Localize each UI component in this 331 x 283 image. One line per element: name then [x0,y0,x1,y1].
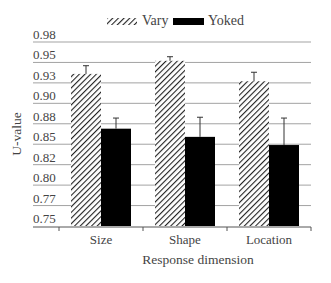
x-axis-label: Response dimension [142,252,254,267]
legend-label-yoked: Yoked [208,13,244,28]
bars [71,57,299,226]
bar-vary-size [71,74,101,226]
bar-vary-location [239,81,269,226]
bar-chart: Vary Yoked 0.750.770.800.820.850.880.900… [0,0,331,283]
bar-yoked-location [269,145,299,226]
y-tick-label: 0.75 [33,211,56,226]
legend-swatch-vary [107,18,137,25]
y-tick-label: 0.95 [33,47,56,62]
y-tick-label: 0.82 [33,150,56,165]
y-tick-label: 0.90 [33,88,56,103]
bar-yoked-shape [185,137,215,226]
legend-label-vary: Vary [142,13,168,28]
y-axis-label: U-value [9,112,24,155]
bar-vary-shape [155,61,185,226]
y-axis-tick-labels: 0.750.770.800.820.850.880.900.930.950.98 [33,27,56,226]
legend-swatch-yoked [173,18,204,25]
legend: Vary Yoked [107,13,244,28]
y-tick-label: 0.77 [33,191,56,206]
y-tick-label: 0.85 [33,129,56,144]
bar-yoked-size [101,129,131,226]
x-tick-label: Size [90,232,113,247]
y-tick-label: 0.93 [33,68,56,83]
y-tick-label: 0.98 [33,27,56,42]
x-tick-label: Shape [169,232,201,247]
y-tick-label: 0.88 [33,109,56,124]
x-tick-label: Location [246,232,293,247]
x-axis: SizeShapeLocation [33,227,311,247]
y-tick-label: 0.80 [33,170,56,185]
